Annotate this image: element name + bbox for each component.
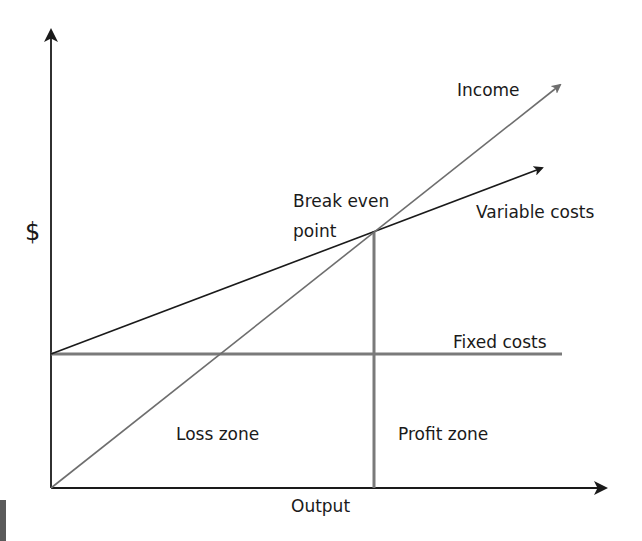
profit-zone-label: Profit zone xyxy=(398,424,488,444)
break-even-diagram: $ Output Income Variable costs Fixed cos… xyxy=(0,0,642,541)
edge-bar-decoration xyxy=(0,500,6,541)
variable-costs-label: Variable costs xyxy=(476,202,595,222)
x-axis-label: Output xyxy=(291,496,350,516)
break-even-label-line1: Break even xyxy=(293,191,389,211)
income-label: Income xyxy=(457,80,520,100)
fixed-costs-label: Fixed costs xyxy=(453,332,547,352)
loss-zone-label: Loss zone xyxy=(176,424,259,444)
y-axis-label: $ xyxy=(25,218,40,246)
break-even-label-line2: point xyxy=(293,221,337,241)
